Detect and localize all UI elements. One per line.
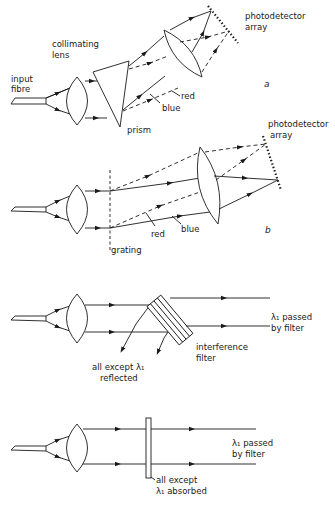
absorption-filter [146,418,151,478]
input-fibre-b [11,207,46,212]
collimating-lens-a [67,77,88,125]
detector-label-a1: photodetector [245,11,306,21]
absorbed-label-2: λ₁ absorbed [156,486,207,496]
collimating-lens-d [67,424,88,472]
prism-label: prism [127,125,151,135]
filter-label-2: filter [196,353,216,363]
reflected-label-2: reflected [100,373,138,383]
lens-label-2: lens [52,50,70,60]
filter-label-1: interference [196,342,248,352]
red-label-a: red [181,91,195,101]
panel-d-absorption-filter: λ₁ passed by filter all except λ₁ absorb… [11,418,273,496]
photodetector-array-b [263,136,281,190]
passed-label-c1: λ₁ passed [271,312,312,322]
panel-b-grating-spectrometer: photodetector array red blue grating b [11,119,329,255]
photodetector-array-a [208,6,238,43]
reflected-label-1: all except λ₁ [92,362,144,372]
absorbed-label-1: all except [156,475,198,485]
detector-label-b2: array [270,130,292,140]
passed-label-c2: by filter [271,323,304,333]
panel-label-b: b [265,225,271,235]
panel-a-prism-spectrometer: photodetector array collimating lens inp… [11,6,306,135]
collimating-lens-b [67,185,88,234]
focusing-lens-a [164,30,202,77]
lens-label-1: collimating [52,39,99,49]
input-label-2: fibre [11,84,30,94]
blue-label-b: blue [181,224,199,234]
red-label-b: red [151,229,165,239]
input-label-1: input [11,74,34,84]
detector-label-b1: photodetector [268,119,329,129]
grating-label: grating [111,245,142,255]
passed-label-d2: by filter [232,449,265,459]
input-fibre [11,98,46,104]
panel-label-a: a [264,79,270,89]
blue-label-a: blue [162,103,180,113]
interference-filter [147,295,193,345]
collimating-lens-c [67,294,88,343]
input-fibre-d [11,446,46,451]
passed-label-d1: λ₁ passed [232,438,273,448]
optical-diagram: photodetector array collimating lens inp… [0,0,335,506]
input-fibre-c [11,316,46,321]
prism [93,61,129,127]
detector-label-a2: array [245,22,267,32]
panel-c-interference-filter: λ₁ passed by filter interference filter … [11,294,312,383]
